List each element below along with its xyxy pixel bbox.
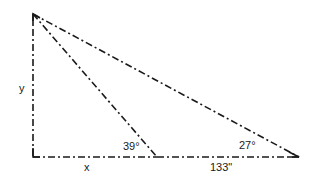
inner-diagonal: [33, 14, 157, 157]
label-angle-27: 27°: [239, 139, 256, 151]
right-angle-mark: [33, 148, 40, 157]
hypotenuse: [33, 14, 299, 157]
right-vertex-mark: [289, 152, 299, 157]
label-angle-39: 39°: [123, 140, 140, 152]
label-base-133: 133": [210, 161, 232, 173]
label-x: x: [84, 161, 90, 173]
label-y: y: [19, 82, 25, 94]
triangle-diagram: y x 39° 27° 133": [0, 0, 317, 182]
